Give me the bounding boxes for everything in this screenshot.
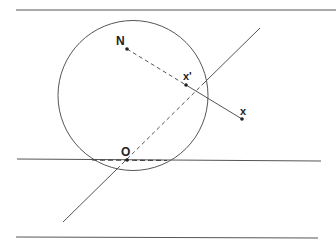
diagonal-line-upper [204,28,260,83]
label-x: x [240,105,247,117]
projection-line-solid [186,85,242,119]
point-x-prime [184,83,188,87]
middle-plane-line [17,159,321,161]
point-N [125,47,129,51]
bottom-plane-line [16,237,318,238]
label-O: O [121,145,130,159]
sphere-circle [58,21,208,171]
label-N: N [116,34,125,48]
stereographic-projection-diagram: N x' x O [0,0,336,244]
diagonal-line-lower [63,169,117,222]
point-x [240,117,244,121]
projection-line-dashed [127,49,186,85]
label-x-prime: x' [183,70,192,82]
